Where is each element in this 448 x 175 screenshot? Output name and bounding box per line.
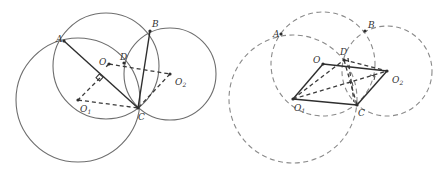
point-o2: [168, 72, 171, 75]
right-diagram-canvas: A B C D O O1 O2: [224, 0, 448, 175]
point-o1: [291, 97, 294, 100]
label-c: C: [358, 108, 365, 118]
left-figure: A B C D O O1 O2: [0, 0, 224, 175]
segment-c-o1: [293, 99, 357, 105]
label-o1: O1: [294, 103, 305, 114]
point-c: [136, 106, 139, 109]
segment-m-o1: [78, 78, 100, 100]
segment-d-c-2: [348, 58, 354, 102]
label-o: O: [99, 57, 107, 67]
left-diagram-canvas: A B C D O O1 O2: [0, 0, 224, 175]
point-o2: [385, 69, 388, 72]
label-c: C: [138, 112, 145, 122]
right-angle-marker-2: [370, 75, 375, 80]
segment-o-o2: [323, 64, 387, 71]
label-o1: O1: [80, 104, 91, 115]
segment-o1-o: [293, 64, 323, 99]
point-o: [107, 62, 110, 65]
point-b: [363, 29, 366, 32]
label-a: A: [55, 34, 63, 44]
point-o1: [76, 98, 79, 101]
label-o2: O2: [175, 77, 186, 88]
point-a: [279, 32, 282, 35]
right-figure: A B C D O O1 O2: [224, 0, 448, 175]
label-b: B: [151, 19, 159, 29]
segment-o-o2: [109, 64, 170, 74]
segment-o2-c: [357, 71, 387, 105]
point-b: [148, 29, 151, 32]
label-d: D: [119, 52, 127, 62]
label-a: A: [272, 29, 280, 39]
point-d: [342, 58, 345, 61]
label-d: D: [339, 47, 347, 57]
label-o: O: [313, 55, 321, 65]
point-c: [355, 103, 358, 106]
label-o2: O2: [392, 75, 403, 86]
point-a: [62, 39, 65, 42]
point-o: [321, 62, 324, 65]
label-b: B: [367, 20, 375, 30]
